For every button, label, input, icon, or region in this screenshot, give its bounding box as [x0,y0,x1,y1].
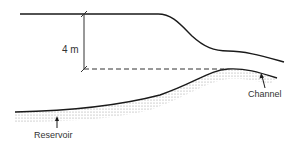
reservoir-label: Reservoir [34,130,73,140]
dimension-label: 4 m [62,44,79,55]
bed-stipple [15,69,277,122]
diagram-canvas [0,0,296,144]
water-surface-line [20,14,284,62]
channel-label: Channel [248,89,282,99]
